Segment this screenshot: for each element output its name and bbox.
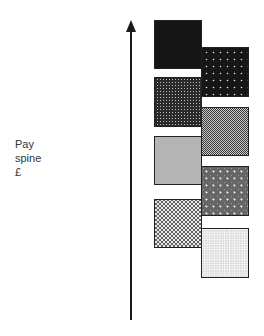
grade-column-left [155, 21, 202, 248]
grade-box-right-2 [202, 108, 249, 156]
grade-box-left-2 [155, 78, 202, 127]
pay-spine-arrow [126, 20, 136, 320]
grade-box-left-1 [155, 21, 202, 69]
pay-spine-diagram [0, 0, 264, 336]
grade-box-left-4 [155, 200, 202, 248]
arrow-head-icon [126, 20, 136, 32]
grade-box-right-3 [202, 167, 249, 216]
grade-box-right-4 [202, 229, 249, 278]
grade-box-left-3 [155, 137, 202, 185]
grade-box-right-1 [202, 48, 249, 97]
grade-column-right [202, 48, 249, 278]
